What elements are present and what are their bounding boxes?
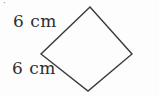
side-length-label-bottom: 6 cm	[12, 59, 56, 77]
side-length-label-top: 6 cm	[13, 12, 57, 30]
geometry-figure: · 6 cm 6 cm	[0, 0, 159, 96]
